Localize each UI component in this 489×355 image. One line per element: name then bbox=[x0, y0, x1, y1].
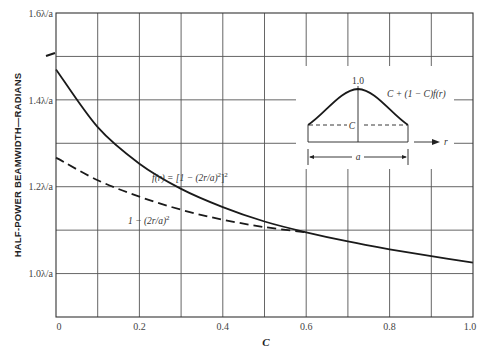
y-tick-1.2: 1.2λ/a bbox=[28, 181, 53, 192]
x-tick-0.6: 0.6 bbox=[300, 321, 313, 332]
x-tick-1.0: 1.0 bbox=[464, 321, 477, 332]
x-tick-0: 0 bbox=[57, 321, 62, 332]
y-tick-1.4: 1.4λ/a bbox=[28, 95, 53, 106]
inset-edge-label: C bbox=[349, 121, 356, 131]
x-axis-title: C bbox=[262, 336, 270, 348]
y-axis-title: HALF-POWER BEAMWIDTH—RADIANS bbox=[12, 73, 23, 258]
x-tick-0.8: 0.8 bbox=[383, 321, 396, 332]
inset-r-label: r bbox=[444, 137, 448, 147]
inset-width-label: a bbox=[356, 152, 361, 162]
y-tick-1.0: 1.0λ/a bbox=[28, 268, 53, 279]
x-tick-0.4: 0.4 bbox=[217, 321, 230, 332]
inset-formula: C + (1 − C)f(r) bbox=[387, 89, 446, 100]
inset-peak-label: 1.0 bbox=[352, 76, 364, 86]
axis-break-mark bbox=[46, 53, 55, 56]
solid-curve-label: f(r) = [1 − (2r/a)2]2 bbox=[152, 171, 228, 184]
dashed-curve-label: 1 − (2r/a)2 bbox=[128, 214, 170, 227]
x-tick-0.2: 0.2 bbox=[133, 321, 146, 332]
y-tick-1.6: 1.6λ/a bbox=[28, 8, 53, 19]
inset-background bbox=[296, 66, 454, 169]
beamwidth-chart: 1.6λ/a 1.4λ/a 1.2λ/a 1.0λ/a 0 0.2 0.4 0.… bbox=[0, 0, 489, 355]
